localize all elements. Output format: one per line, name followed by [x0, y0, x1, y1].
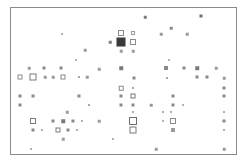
scatter-marker [86, 76, 89, 79]
scatter-marker [112, 138, 114, 140]
scatter-marker [166, 77, 168, 79]
scatter-marker [132, 104, 135, 107]
plot-frame [10, 7, 237, 155]
scatter-marker [168, 59, 170, 61]
scatter-marker [78, 95, 81, 98]
scatter-marker [129, 117, 137, 125]
scatter-marker [98, 120, 101, 123]
scatter-marker [132, 87, 134, 89]
scatter-marker [172, 104, 175, 107]
scatter-marker [118, 30, 124, 36]
scatter-marker [119, 66, 123, 70]
scatter-marker [78, 76, 80, 78]
scatter-marker [43, 67, 46, 70]
scatter-marker [223, 95, 226, 98]
scatter-marker [171, 128, 175, 132]
scatter-marker [172, 95, 175, 98]
scatter-marker [75, 59, 77, 61]
scatter-marker [32, 95, 35, 98]
scatter-marker [19, 104, 22, 107]
scatter-marker [88, 104, 90, 106]
scatter-marker [182, 104, 184, 106]
scatter-marker [162, 111, 164, 113]
scatter-marker [60, 67, 63, 70]
scatter-marker [52, 76, 55, 79]
scatter-marker [119, 86, 124, 91]
scatter-marker [170, 27, 173, 30]
scatter-marker [196, 76, 199, 79]
scatter-marker [206, 76, 209, 79]
scatter-marker [170, 111, 172, 113]
scatter-marker [223, 148, 226, 151]
scatter-marker [81, 120, 83, 122]
scatter-marker [183, 67, 186, 70]
plot-area [11, 8, 236, 154]
scatter-marker [61, 75, 66, 80]
scatter-marker [117, 38, 126, 47]
scatter-marker [19, 95, 22, 98]
scatter-marker [223, 129, 225, 131]
scatter-marker [200, 15, 203, 18]
scatter-marker [223, 120, 226, 123]
scatter-marker [144, 16, 147, 19]
scatter-marker [76, 129, 78, 131]
scatter-marker [52, 120, 55, 123]
scatter-marker [150, 104, 153, 107]
scatter-marker [56, 128, 61, 133]
scatter-marker [162, 120, 164, 122]
scatter-marker [130, 127, 137, 134]
scatter-marker [133, 77, 136, 80]
scatter-marker [170, 118, 176, 124]
scatter-marker [120, 95, 123, 98]
scatter-marker [120, 50, 123, 53]
scatter-marker [223, 77, 226, 80]
scatter-marker [223, 87, 226, 90]
scatter-marker [155, 148, 158, 151]
scatter-marker [41, 129, 43, 131]
scatter-marker [67, 129, 70, 132]
scatter-marker [132, 50, 135, 53]
scatter-marker [18, 75, 23, 80]
scatter-marker [131, 94, 136, 99]
scatter-marker [164, 66, 168, 70]
scatter-marker [32, 129, 35, 132]
scatter-marker [223, 111, 225, 113]
scatter-marker [186, 33, 189, 36]
scatter-marker [132, 111, 134, 113]
scatter-marker [98, 68, 101, 71]
scatter-marker [30, 74, 37, 81]
scatter-marker [61, 33, 63, 35]
scatter-figure [0, 0, 247, 164]
scatter-marker [109, 41, 112, 44]
scatter-marker [62, 138, 65, 141]
scatter-marker [44, 76, 47, 79]
scatter-marker [215, 67, 218, 70]
scatter-marker [120, 104, 123, 107]
scatter-marker [72, 120, 75, 123]
scatter-marker [30, 148, 32, 150]
scatter-marker [61, 119, 65, 123]
scatter-marker [130, 39, 136, 45]
scatter-marker [160, 33, 163, 36]
scatter-marker [131, 31, 135, 35]
scatter-marker [30, 118, 36, 124]
scatter-marker [28, 67, 31, 70]
scatter-marker [66, 111, 69, 114]
scatter-marker [84, 49, 87, 52]
scatter-marker [195, 66, 199, 70]
